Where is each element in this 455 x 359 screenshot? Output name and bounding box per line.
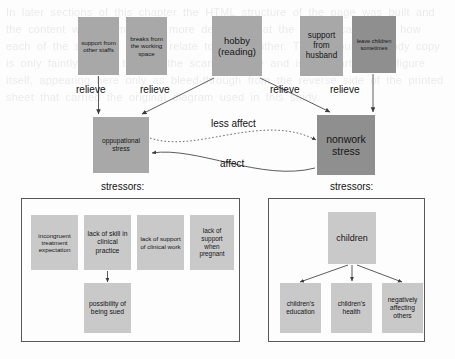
node-occupational-stress[interactable]: oppupational stress (93, 117, 149, 173)
wire-less-affect (150, 130, 316, 142)
node-support-husband[interactable]: support from husband (300, 16, 343, 76)
node-lack-of-skill-in-clinical-practice[interactable]: lack of skill in clinical practice (84, 215, 131, 270)
edge-label-relieve-4: relieve (330, 84, 359, 95)
node-support-other-staffs[interactable]: support from other staffs (78, 17, 119, 75)
node-nonwork-stress[interactable]: nonwork stress (317, 115, 375, 175)
node-hobby-reading[interactable]: hobby (reading) (212, 16, 262, 76)
node-breaks-working-space[interactable]: breaks from the working space (126, 17, 167, 75)
node-negatively-affecting-others[interactable]: negatively affecting others (382, 283, 423, 333)
edge-label-affect: affect (220, 158, 244, 169)
caption-nonwork-stressors: stressors: (330, 181, 373, 192)
edge-label-relieve-3: relieve (270, 84, 299, 95)
node-incongruent-treatment-expectation[interactable]: incongruent treatment expectation (31, 215, 78, 270)
node-childrens-education[interactable]: children's education (280, 283, 321, 333)
edge-label-less-affect: less affect (211, 118, 256, 129)
edge-label-relieve-2: relieve (140, 84, 169, 95)
caption-occupational-stressors: stressors: (101, 181, 144, 192)
node-lack-of-support-of-clinical-work[interactable]: lack of support of clinical work (137, 215, 184, 270)
node-childrens-health[interactable]: children's health (331, 283, 372, 333)
diagram-canvas: In later sections of this chapter the HT… (0, 0, 455, 359)
node-children[interactable]: children (328, 212, 376, 264)
node-lack-of-support-when-pregnant[interactable]: lack of support when pregnant (190, 215, 234, 270)
node-possibility-of-being-sued[interactable]: possibility of being sued (84, 283, 131, 333)
node-leave-children-sometimes[interactable]: leave children sometimes (352, 16, 396, 73)
edge-label-relieve-1: relieve (76, 84, 105, 95)
